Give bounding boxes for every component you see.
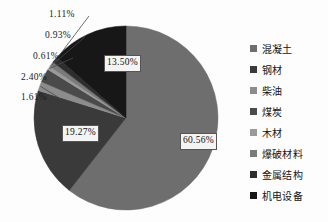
pie-value-label: 60.56%	[180, 133, 217, 150]
legend-item-label: 爆破材料	[262, 146, 303, 161]
legend-item[interactable]: 钢材	[250, 59, 328, 80]
legend-item[interactable]: 木材	[250, 122, 328, 143]
pie-slice-group	[34, 26, 218, 210]
pie-value-label: 19.27%	[62, 125, 99, 142]
legend-item-label: 钢材	[262, 62, 282, 77]
pie-callout-label: 1.11%	[49, 9, 75, 19]
pie-svg	[0, 0, 252, 222]
chart-legend: 混凝土钢材柴油煤炭木材爆破材料金属结构机电设备	[250, 38, 328, 206]
pie-chart-figure: 1.11%0.93%0.61%2.40%1.61% 13.50%19.27%60…	[0, 0, 328, 222]
legend-swatch-icon	[250, 108, 257, 115]
pie-callout-label: 2.40%	[21, 72, 47, 82]
legend-item-label: 混凝土	[262, 41, 293, 56]
legend-item-label: 金属结构	[262, 167, 303, 182]
legend-item-label: 煤炭	[262, 104, 282, 119]
pie-callout-label: 0.93%	[45, 30, 71, 40]
legend-item-label: 柴油	[262, 83, 282, 98]
legend-swatch-icon	[250, 45, 257, 52]
legend-item[interactable]: 混凝土	[250, 38, 328, 59]
legend-swatch-icon	[250, 129, 257, 136]
legend-swatch-icon	[250, 150, 257, 157]
pie-plot-area: 1.11%0.93%0.61%2.40%1.61% 13.50%19.27%60…	[0, 0, 252, 222]
legend-item[interactable]: 煤炭	[250, 101, 328, 122]
legend-item[interactable]: 机电设备	[250, 185, 328, 206]
legend-item-label: 机电设备	[262, 188, 303, 203]
legend-item-label: 木材	[262, 125, 282, 140]
legend-item[interactable]: 爆破材料	[250, 143, 328, 164]
pie-callout-label: 0.61%	[33, 51, 59, 61]
legend-swatch-icon	[250, 192, 257, 199]
legend-swatch-icon	[250, 66, 257, 73]
pie-value-label: 13.50%	[104, 55, 141, 72]
pie-callout-label: 1.61%	[21, 92, 47, 102]
legend-item[interactable]: 柴油	[250, 80, 328, 101]
legend-swatch-icon	[250, 171, 257, 178]
legend-swatch-icon	[250, 87, 257, 94]
legend-item[interactable]: 金属结构	[250, 164, 328, 185]
